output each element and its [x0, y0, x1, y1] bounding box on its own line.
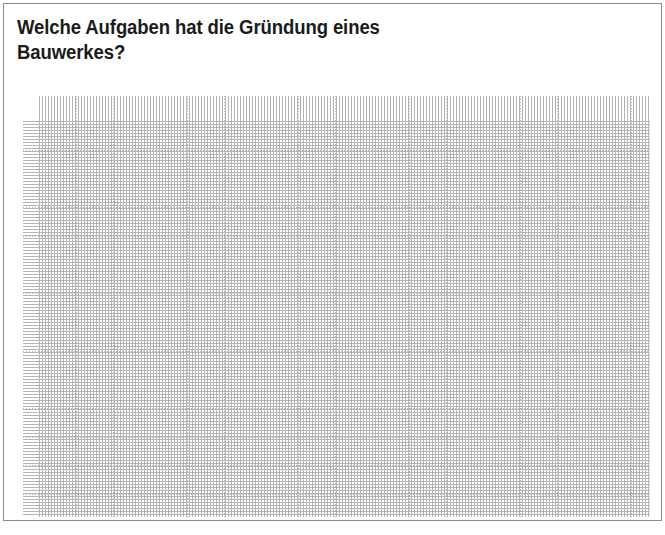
worksheet-frame: Welche Aufgaben hat die Gründung eines B… — [3, 3, 662, 521]
grid-column-line — [557, 96, 558, 517]
grid-column-line — [113, 96, 114, 517]
question-title: Welche Aufgaben hat die Gründung eines B… — [17, 15, 587, 65]
grid-column-line — [224, 96, 225, 517]
grid-column-line — [372, 96, 373, 517]
worksheet-page: Welche Aufgaben hat die Gründung eines B… — [0, 0, 665, 535]
grid-column-line — [520, 96, 521, 517]
grid-column-line — [261, 96, 262, 517]
grid-column-line — [187, 96, 188, 517]
grid-column-line — [483, 96, 484, 517]
grid-column-line — [39, 96, 40, 517]
grid-column-line — [335, 96, 336, 517]
answer-grid-columns — [23, 96, 650, 517]
grid-column-line — [298, 96, 299, 517]
grid-column-line — [594, 96, 595, 517]
grid-column-line — [150, 96, 151, 517]
grid-column-line — [631, 96, 632, 517]
grid-column-line — [446, 96, 447, 517]
answer-grid[interactable] — [23, 96, 650, 517]
grid-column-line — [76, 96, 77, 517]
grid-column-line — [409, 96, 410, 517]
